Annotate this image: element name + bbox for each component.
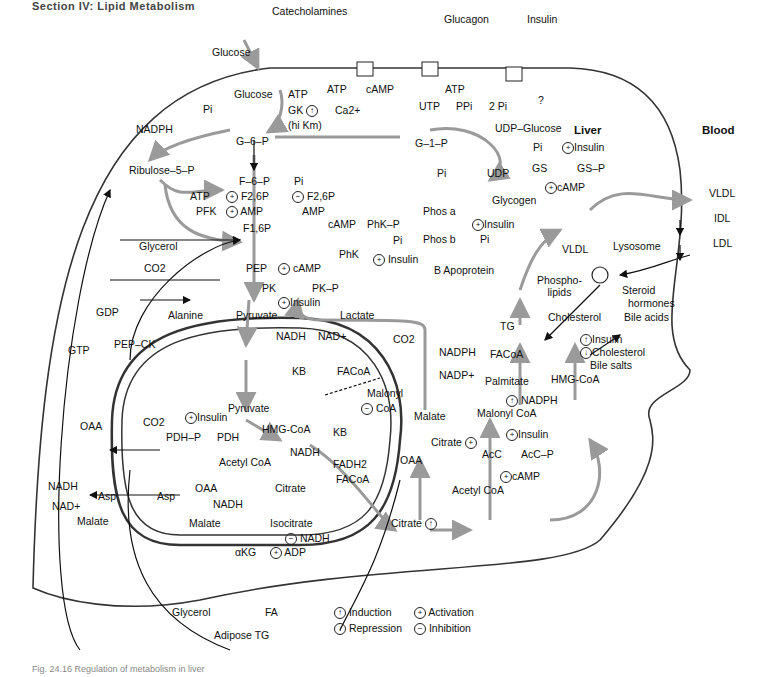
lipo-malate: Malate [414,410,446,422]
phos-b: Phos b [423,233,456,245]
steroid: Steroid [622,284,655,296]
legend-induction: ↑ Induction [334,606,392,619]
udp-glucose: UDP–Glucose [495,122,562,134]
cytosol-citrate: Citrate ↑ [391,517,437,530]
mito-malate: Malate [189,517,221,529]
phk-pi: Pi [393,234,402,246]
pdh-insulin: +Insulin [185,411,227,424]
cholesterol: Cholesterol [548,311,601,323]
lactate: Lactate [340,309,374,321]
pi-glycogen: Pi [437,167,446,179]
cytosol-asp: Asp [98,490,116,502]
gs-pi: Pi [533,141,542,153]
gk-label: GK ↑ [288,104,318,117]
mito-nadh: NADH [290,446,320,458]
lysosome-circle [592,267,608,283]
cell-vldl: VLDL [562,243,588,255]
cytosol-nadh: NADH [48,480,78,492]
mitochondrion-outer [112,318,402,545]
cytosol-malate: Malate [77,515,109,527]
acc-insulin: +Insulin [506,428,548,441]
gs-p: GS–P [577,162,605,174]
pk-camp: + cAMP [278,262,321,275]
tg: TG [500,320,515,332]
pdh-p: PDH–P [166,431,201,443]
pep-ck: PEP–CK [114,338,155,350]
cyto-hmg-coa: HMG-CoA [551,373,599,385]
lipo-oaa: OAA [400,454,422,466]
legend-repression: ↓ Repression [334,622,402,635]
malic-nadp: NADP+ [439,369,474,381]
acc-citrate: Citrate + [431,436,477,449]
idh-adp: + ADP [270,546,306,559]
cytosol-oaa: OAA [80,420,102,432]
b-apoprotein: B Apoprotein [434,264,494,276]
reg-cholesterol: ↓Cholesterol [580,346,645,359]
g1p: G–1–P [415,137,448,149]
catecholamine-receptor [357,62,373,76]
adipose-fa: FA [265,606,278,618]
nadh: NADH [276,330,306,342]
utp: UTP [419,100,440,112]
pfk: PFK [196,205,216,217]
co2: CO2 [144,262,166,274]
malonyl-coa-inhibitor: − CoA [361,402,396,415]
pk: PK [262,282,276,294]
glycerol: Glycerol [139,240,178,252]
mito-co2: CO2 [143,416,165,428]
two-pi: 2 Pi [489,100,507,112]
insulin-receptor [506,67,522,81]
f6p: F–6–P [239,175,270,187]
blood-idl: IDL [714,212,730,224]
malonyl-inhibitor: Malonyl [367,387,403,399]
glucose-cell: Glucose [234,88,273,100]
mitochondrion-inner [122,328,391,535]
calcium-label: Ca2+ [335,104,360,116]
gk-note: (hi Km) [288,119,322,131]
camp-label: cAMP [366,83,394,95]
cytosol-facoa: FACoA [337,365,370,377]
pi: Pi [203,103,212,115]
page-header: Section IV: Lipid Metabolism [32,0,195,12]
mito-pyruvate: Pyruvate [228,402,269,414]
pep: PEP [246,262,267,274]
mito-kb: KB [333,426,347,438]
atp-pfk: ATP [190,190,210,202]
mito-citrate: Citrate [275,482,306,494]
mito-acetyl-coa: Acetyl CoA [219,456,271,468]
ribulose-5-p: Ribulose–5–P [129,164,194,176]
pfk-activator-1: + F2,6P [226,190,269,203]
atp: ATP [288,88,308,100]
reg-insulin: ↑Insulin [580,333,622,346]
cytosol-nad: NAD+ [52,500,80,512]
gs: GS [532,162,547,174]
fbpase-inhibitor-2: AMP [302,205,325,217]
udp: UDP [487,167,509,179]
idh-nadh: − NADH [285,532,330,545]
mito-asp: Asp [157,490,175,502]
region-blood: Blood [702,124,735,136]
malonyl-coa: Malonyl CoA [477,407,537,419]
palmitate-nadph: ↑ NADPH [506,394,558,407]
phk-p: PhK–P [367,218,400,230]
nad: NAD+ [318,330,346,342]
g6p: G–6–P [236,135,269,147]
glucagon-label: Glucagon [444,13,489,25]
cytosol-acetyl-coa: Acetyl CoA [452,484,504,496]
pfk-activator-2: + AMP [226,205,263,218]
bile-acids: Bile acids [624,311,669,323]
atp-glucagon-label: ATP [445,83,465,95]
pk-insulin: +Insulin [278,296,320,309]
legend-inhibition: − Inhibition [414,622,471,635]
cytosol-kb: KB [292,365,306,377]
phos-a: Phos a [423,205,456,217]
gs-camp: +cAMP [545,181,585,194]
atp-label: ATP [327,83,347,95]
mito-facoa: FACoA [336,473,369,485]
glucagon-receptor [422,62,438,76]
mito-hmg-coa: HMG-CoA [262,423,310,435]
malic-co2: CO2 [393,333,415,345]
phospholipids: Phospho- lipids [537,274,582,298]
